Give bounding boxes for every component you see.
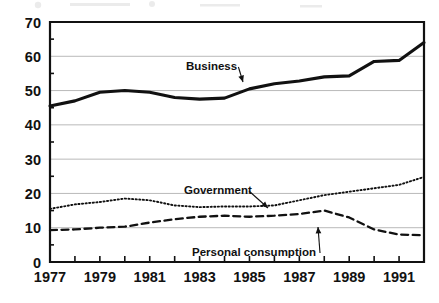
- annotation-label: Business: [186, 60, 237, 72]
- x-tick-label: 1983: [183, 269, 215, 285]
- x-tick-label: 1979: [84, 269, 116, 285]
- scan-artifacts: [35, 1, 322, 8]
- y-tick-label: 50: [25, 83, 41, 99]
- annotation-label: Personal consumption: [192, 246, 316, 258]
- chart-canvas: 010203040506070 197719791981198319851987…: [0, 0, 439, 303]
- annotation-label: Government: [184, 184, 252, 196]
- series-line-business: [50, 43, 424, 106]
- x-tick-label: 1981: [134, 269, 166, 285]
- y-tick-label: 40: [25, 117, 41, 133]
- gridlines: [50, 56, 424, 227]
- x-axis-tick-labels: 19771979198119831985198719891991: [34, 269, 415, 285]
- y-tick-label: 20: [25, 186, 41, 202]
- y-tick-label: 60: [25, 49, 41, 65]
- annotation-arrowhead: [238, 75, 243, 82]
- y-tick-label: 30: [25, 152, 41, 168]
- x-tick-label: 1985: [233, 269, 265, 285]
- x-tick-label: 1991: [383, 269, 415, 285]
- x-tick-label: 1987: [283, 269, 315, 285]
- x-tick-label: 1989: [333, 269, 365, 285]
- y-axis-tick-labels: 010203040506070: [25, 15, 41, 271]
- x-tick-label: 1977: [34, 269, 66, 285]
- series-line-personal-consumption: [50, 211, 424, 236]
- y-tick-label: 70: [25, 15, 41, 31]
- line-chart: 010203040506070 197719791981198319851987…: [0, 0, 439, 303]
- y-tick-label: 10: [25, 220, 41, 236]
